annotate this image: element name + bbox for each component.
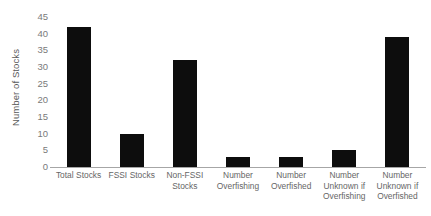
bar[interactable] xyxy=(226,157,250,167)
bar-slot xyxy=(158,17,211,167)
bar-slot xyxy=(265,17,318,167)
y-tick-label: 40 xyxy=(4,29,48,39)
y-tick-label: 20 xyxy=(4,96,48,106)
bar[interactable] xyxy=(120,134,144,167)
bar-slot xyxy=(211,17,264,167)
bar[interactable] xyxy=(385,37,409,167)
bar-chart: Number of Stocks 051015202530354045 Tota… xyxy=(0,0,431,216)
bar-slot xyxy=(318,17,371,167)
y-tick-label: 10 xyxy=(4,129,48,139)
y-tick-label: 30 xyxy=(4,62,48,72)
x-tick-label: Non-FSSI Stocks xyxy=(156,170,213,191)
bar-slot xyxy=(371,17,424,167)
x-tick-label: Number Unknown if Overfishing xyxy=(316,170,373,202)
bar[interactable] xyxy=(173,60,197,167)
bar-slot xyxy=(105,17,158,167)
bar[interactable] xyxy=(332,150,356,167)
bar-slot xyxy=(52,17,105,167)
plot-area xyxy=(52,17,424,167)
x-tick-label: Total Stocks xyxy=(50,170,107,181)
y-tick-label: 45 xyxy=(4,12,48,22)
bar[interactable] xyxy=(279,157,303,167)
x-tick-label: Number Unknown if Overfished xyxy=(369,170,426,202)
y-tick-label: 0 xyxy=(4,162,48,172)
y-tick-label: 5 xyxy=(4,146,48,156)
x-tick-label: Number Overfishing xyxy=(209,170,266,191)
x-axis-line xyxy=(50,167,426,168)
x-tick-label: FSSI Stocks xyxy=(103,170,160,181)
y-tick-label: 15 xyxy=(4,112,48,122)
x-axis-tick-labels: Total StocksFSSI StocksNon-FSSI StocksNu… xyxy=(52,170,424,214)
y-axis-tick-labels: 051015202530354045 xyxy=(0,0,48,216)
y-tick-label: 25 xyxy=(4,79,48,89)
bar[interactable] xyxy=(67,27,91,167)
x-tick-label: Number Overfished xyxy=(263,170,320,191)
y-tick-label: 35 xyxy=(4,46,48,56)
